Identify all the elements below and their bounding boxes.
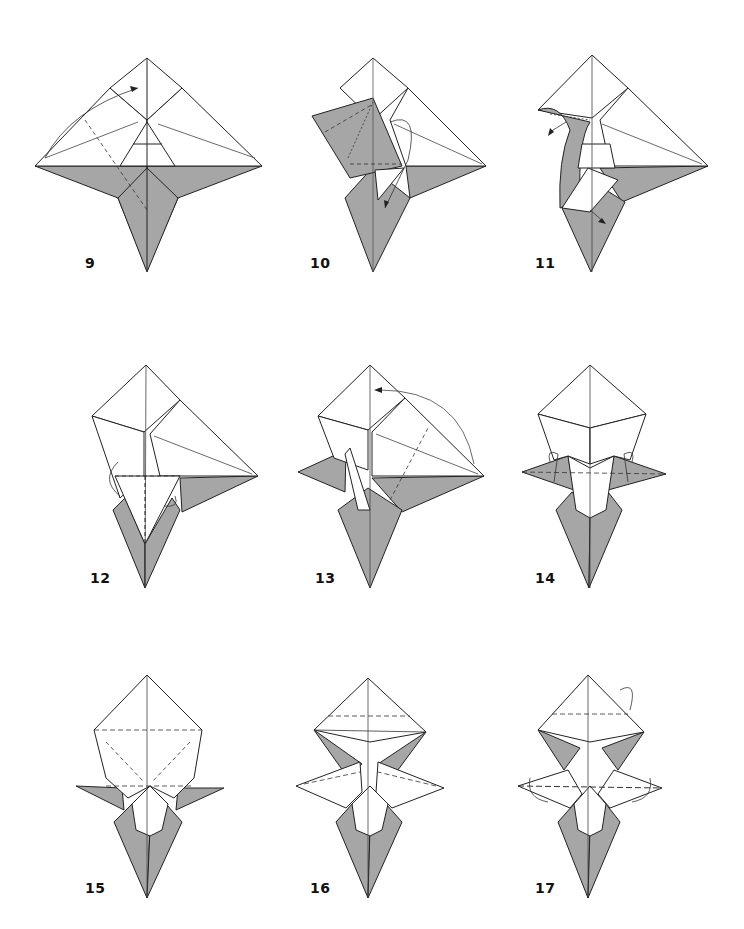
step-number: 16 — [310, 880, 330, 896]
step-number: 10 — [310, 255, 330, 271]
step-9-illustration — [30, 40, 270, 280]
step-number: 17 — [535, 880, 555, 896]
step-14-illustration — [510, 360, 690, 600]
step-number: 11 — [535, 255, 555, 271]
step-12-diagram: 12 — [80, 360, 280, 600]
step-13-illustration — [290, 360, 490, 600]
step-11-diagram: 11 — [510, 40, 730, 280]
step-number: 9 — [85, 255, 95, 271]
step-10-diagram: 10 — [290, 40, 490, 280]
step-number: 12 — [90, 570, 110, 586]
step-number: 15 — [85, 880, 105, 896]
step-number: 13 — [315, 570, 335, 586]
step-9-diagram: 9 — [30, 40, 270, 280]
step-15-diagram: 15 — [70, 670, 270, 910]
step-16-diagram: 16 — [290, 670, 490, 910]
step-13-diagram: 13 — [290, 360, 490, 600]
step-12-illustration — [80, 360, 280, 600]
step-17-diagram: 17 — [510, 670, 710, 910]
step-17-illustration — [510, 670, 710, 910]
step-16-illustration — [290, 670, 490, 910]
step-14-diagram: 14 — [510, 360, 690, 600]
step-10-illustration — [290, 40, 490, 280]
step-15-illustration — [70, 670, 270, 910]
step-number: 14 — [535, 570, 555, 586]
step-11-illustration — [510, 40, 730, 280]
